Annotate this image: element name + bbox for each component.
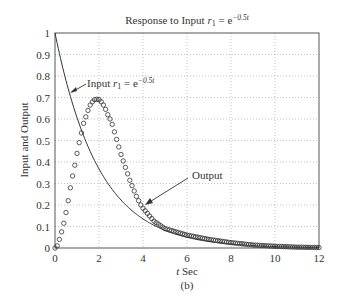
- x-tick-label: 4: [140, 252, 146, 264]
- output-marker: [101, 103, 105, 107]
- y-axis-ticks: 00.10.20.30.40.50.60.70.80.91: [36, 27, 50, 254]
- y-axis-label: Input and Output: [18, 102, 30, 177]
- output-marker: [77, 140, 81, 144]
- output-marker: [117, 145, 121, 149]
- x-axis-ticks: 024681012: [52, 252, 324, 264]
- output-markers: [53, 97, 321, 250]
- output-marker: [106, 113, 110, 117]
- output-marker: [114, 137, 118, 141]
- output-marker: [112, 130, 116, 134]
- grid-lines: [55, 33, 319, 248]
- output-marker: [57, 237, 61, 241]
- y-tick-label: 0.2: [36, 199, 50, 211]
- output-marker: [81, 121, 85, 125]
- output-marker: [66, 199, 70, 203]
- output-marker: [136, 199, 140, 203]
- x-tick-label: 0: [52, 252, 58, 264]
- output-marker: [70, 174, 74, 178]
- chart: 00.10.20.30.40.50.60.70.80.91 024681012 …: [0, 0, 340, 299]
- y-tick-label: 0.5: [36, 135, 50, 147]
- output-marker: [130, 183, 134, 187]
- x-tick-label: 2: [96, 252, 102, 264]
- y-tick-label: 0: [45, 242, 51, 254]
- y-tick-label: 0.6: [36, 113, 50, 125]
- y-tick-label: 1: [45, 27, 51, 39]
- output-marker: [68, 186, 72, 190]
- output-marker: [110, 122, 114, 126]
- x-tick-label: 6: [184, 252, 190, 264]
- arrowhead-icon: [70, 87, 77, 93]
- x-tick-label: 12: [314, 252, 325, 264]
- y-tick-label: 0.9: [36, 49, 50, 61]
- output-marker: [73, 163, 77, 167]
- output-marker: [134, 194, 138, 198]
- x-tick-label: 8: [228, 252, 234, 264]
- output-marker: [125, 172, 129, 176]
- output-marker: [123, 165, 127, 169]
- x-axis-label: t Sec: [176, 265, 198, 277]
- y-tick-label: 0.4: [36, 156, 50, 168]
- output-marker: [86, 108, 90, 112]
- output-annotation-label: Output: [192, 169, 223, 181]
- output-marker: [84, 115, 88, 119]
- output-marker: [132, 189, 136, 193]
- output-annotation-arrow: [148, 178, 188, 203]
- y-tick-label: 0.7: [36, 92, 50, 104]
- output-marker: [59, 230, 63, 234]
- input-annotation-label: Input r1 = e−0.5t: [87, 76, 155, 91]
- x-tick-label: 10: [270, 252, 282, 264]
- output-marker: [62, 221, 66, 225]
- figure-caption: (b): [181, 279, 194, 292]
- chart-title: Response to Input r1 = e−0.5t: [125, 13, 250, 28]
- output-marker: [75, 151, 79, 155]
- output-marker: [119, 152, 123, 156]
- output-marker: [64, 210, 68, 214]
- output-marker: [128, 178, 132, 182]
- output-marker: [103, 107, 107, 111]
- y-tick-label: 0.3: [36, 178, 50, 190]
- output-marker: [121, 159, 125, 163]
- arrowhead-icon: [145, 198, 153, 205]
- y-tick-label: 0.1: [36, 221, 50, 233]
- y-tick-label: 0.8: [36, 70, 50, 82]
